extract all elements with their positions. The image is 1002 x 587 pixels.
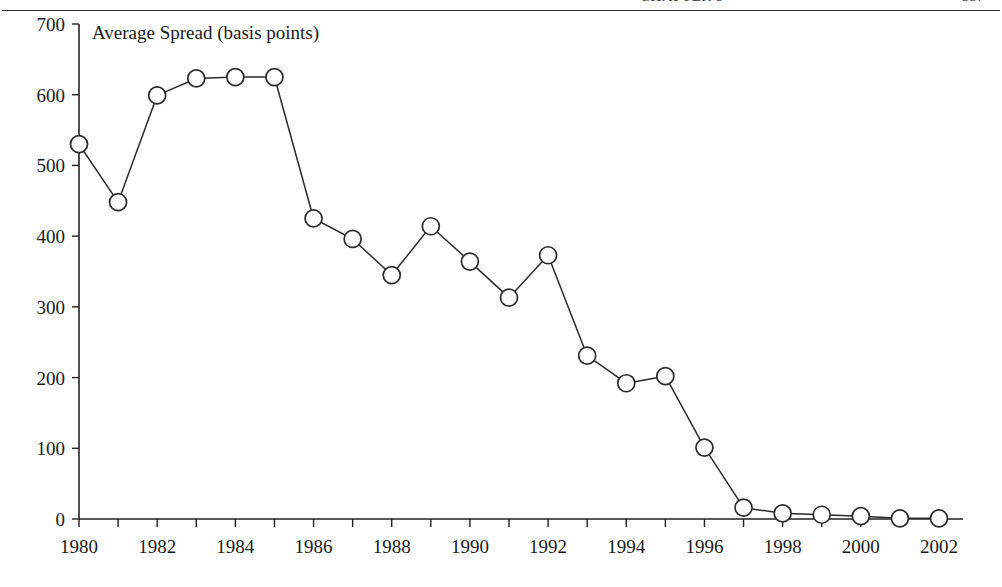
data-point-marker	[422, 218, 439, 235]
data-point-marker	[618, 375, 635, 392]
line-chart: Average Spread (basis points) 0100200300…	[0, 14, 1002, 587]
running-header-text: CHAPTER 9	[640, 0, 724, 5]
data-point-marker	[579, 347, 596, 364]
data-point-marker	[383, 267, 400, 284]
x-tick-label: 1992	[529, 536, 567, 557]
x-tick-label: 1988	[373, 536, 411, 557]
x-tick-label: 2000	[842, 536, 880, 557]
y-tick-label: 500	[37, 155, 66, 176]
x-tick-label: 1986	[295, 536, 333, 557]
y-tick-group: 0100200300400500600700	[37, 14, 80, 530]
x-tick-label: 1982	[138, 536, 176, 557]
data-point-marker	[71, 136, 88, 153]
chart-svg: Average Spread (basis points) 0100200300…	[0, 14, 1002, 587]
x-tick-label: 1994	[607, 536, 646, 557]
data-point-marker	[657, 368, 674, 385]
x-tick-label: 1990	[451, 536, 489, 557]
x-tick-label: 1980	[60, 536, 98, 557]
y-tick-label: 0	[56, 509, 66, 530]
x-tick-group: 1980198219841986198819901992199419961998…	[60, 519, 958, 557]
data-point-marker	[891, 510, 908, 527]
data-point-marker	[344, 230, 361, 247]
data-point-marker	[149, 87, 166, 104]
data-point-markers	[71, 69, 948, 527]
y-axis: 0100200300400500600700	[37, 14, 80, 530]
page-header-strip: CHAPTER 9 337	[0, 0, 1002, 14]
header-rule-divider	[2, 10, 1000, 11]
data-series	[71, 69, 948, 527]
x-tick-label: 2002	[920, 536, 958, 557]
y-tick-label: 200	[37, 368, 66, 389]
chart-title: Average Spread (basis points)	[92, 22, 319, 44]
data-point-marker	[110, 194, 127, 211]
data-point-marker	[774, 505, 791, 522]
data-point-marker	[735, 499, 752, 516]
scanned-page: CHAPTER 9 337 Average Spread (basis poin…	[0, 0, 1002, 587]
x-axis: 1980198219841986198819901992199419961998…	[60, 519, 963, 557]
data-point-marker	[501, 289, 518, 306]
data-point-marker	[227, 69, 244, 86]
page-number: 337	[962, 0, 985, 5]
y-tick-label: 700	[37, 14, 66, 35]
data-point-marker	[461, 253, 478, 270]
y-tick-label: 100	[37, 438, 66, 459]
y-tick-label: 300	[37, 297, 66, 318]
data-point-marker	[931, 510, 948, 527]
x-tick-label: 1984	[216, 536, 255, 557]
data-point-marker	[813, 506, 830, 523]
data-point-marker	[188, 70, 205, 87]
x-tick-label: 1996	[685, 536, 723, 557]
y-tick-label: 400	[37, 226, 66, 247]
data-point-marker	[696, 439, 713, 456]
y-tick-label: 600	[37, 85, 66, 106]
data-point-marker	[266, 69, 283, 86]
data-point-marker	[305, 210, 322, 227]
data-point-marker	[852, 508, 869, 525]
data-point-marker	[540, 247, 557, 264]
x-tick-label: 1998	[764, 536, 802, 557]
